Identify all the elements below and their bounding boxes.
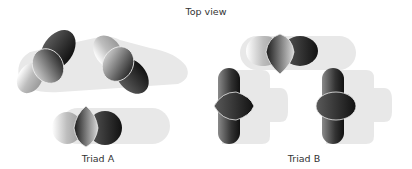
triad-b-label: Triad B <box>254 153 354 164</box>
triad-a-group <box>12 23 188 147</box>
triad-a-label: Triad A <box>48 153 148 164</box>
triad-b-group <box>214 34 392 144</box>
diagram-canvas <box>0 0 412 169</box>
